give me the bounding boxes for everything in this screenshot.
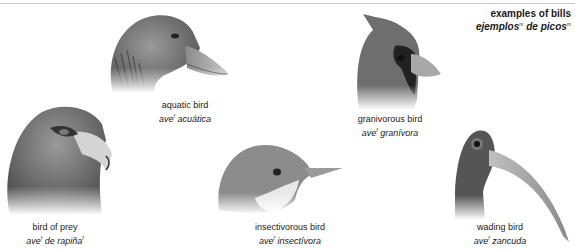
caption-wading-bird: wading bird avef zancuda <box>455 222 545 247</box>
insectivorous-bird-illustration <box>215 140 345 215</box>
granivorous-bird-illustration <box>355 10 445 110</box>
title-english: examples of bills <box>476 8 571 19</box>
caption-bird-of-prey: bird of prey avef de rapiñaf <box>0 222 110 247</box>
title-spanish: ejemplosm de picosm <box>476 19 571 32</box>
caption-aquatic-bird: aquatic bird avef acuática <box>130 100 240 125</box>
bird-of-prey-illustration <box>2 100 117 215</box>
diagram-title: examples of bills ejemplosm de picosm <box>476 8 571 32</box>
aquatic-bird-illustration <box>105 8 235 93</box>
top-rule <box>0 3 575 4</box>
caption-granivorous-bird: granivorous bird avef granívora <box>340 114 440 139</box>
caption-insectivorous-bird: insectivorous bird avef insectívora <box>235 222 345 247</box>
